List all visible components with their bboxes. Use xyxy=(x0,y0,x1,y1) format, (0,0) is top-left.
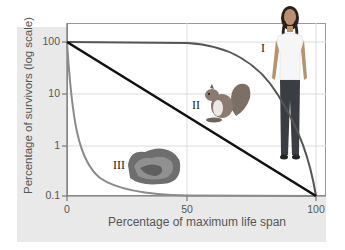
curve-label-I: I xyxy=(261,41,265,56)
curve-label-II: II xyxy=(192,98,200,113)
oyster-illustration xyxy=(128,149,180,185)
curve-II xyxy=(67,42,316,196)
x-tick-50: 50 xyxy=(172,203,202,215)
squirrel-illustration xyxy=(205,84,250,123)
x-axis-label: Percentage of maximum life span xyxy=(97,215,297,229)
human-illustration xyxy=(272,6,307,160)
curve-label-III: III xyxy=(113,158,125,173)
x-tick-100: 100 xyxy=(301,203,331,215)
y-tick-0.1: 0.1 xyxy=(34,189,60,201)
y-axis-label: Percentage of survivors (log scale) xyxy=(22,44,36,194)
y-tick-10: 10 xyxy=(34,87,60,99)
x-tick-0: 0 xyxy=(52,203,82,215)
y-tick-100: 100 xyxy=(34,35,60,47)
y-tick-1: 1 xyxy=(34,139,60,151)
